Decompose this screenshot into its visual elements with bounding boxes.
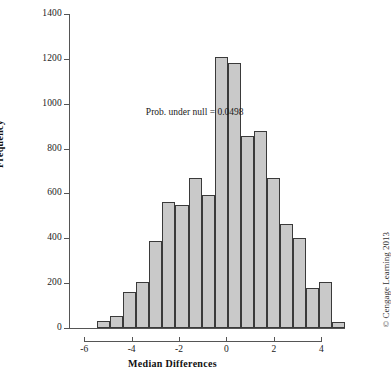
x-axis-tick (274, 337, 275, 342)
histogram-bar (175, 205, 188, 328)
x-axis-tick-label: 4 (309, 344, 333, 354)
probability-annotation: Prob. under null = 0.0498 (146, 107, 244, 117)
histogram-bar (280, 224, 293, 328)
histogram-bar (241, 136, 254, 328)
x-axis-tick (321, 337, 322, 342)
x-axis-tick (132, 337, 133, 342)
y-axis-tick (64, 193, 69, 194)
histogram-bar (202, 195, 215, 328)
x-axis-tick (84, 337, 85, 342)
x-axis-tick-label: -2 (167, 344, 191, 354)
histogram-bar (306, 288, 319, 328)
y-axis-tick (64, 328, 69, 329)
histogram-bar (332, 322, 345, 328)
plot-area (70, 14, 345, 328)
x-axis-title: Median Differences (0, 358, 345, 369)
y-axis-tick (64, 14, 69, 15)
x-axis-tick-label: 2 (262, 344, 286, 354)
histogram-bar (97, 321, 110, 328)
histogram-bar (136, 282, 149, 328)
y-axis-tick-label: 800 (28, 143, 62, 153)
histogram-bar (215, 57, 228, 328)
histogram-bar (123, 292, 136, 328)
histogram-bar (319, 282, 332, 328)
clipped-caption (4, 375, 124, 383)
y-axis-tick (64, 149, 69, 150)
histogram-bar (149, 241, 162, 328)
x-axis-baseline (69, 328, 345, 329)
y-axis-tick (64, 238, 69, 239)
x-axis-rule-line (84, 341, 321, 342)
y-axis-tick-label: 600 (28, 187, 62, 197)
y-axis-title: Frequency (0, 120, 5, 168)
x-axis-tick (179, 337, 180, 342)
y-axis-tick (64, 104, 69, 105)
x-axis-tick-label: -4 (120, 344, 144, 354)
x-axis-ruler: -6-4-2024 (0, 337, 383, 347)
y-axis-tick-label: 0 (28, 322, 62, 332)
x-axis-tick (226, 337, 227, 342)
y-axis-tick (64, 59, 69, 60)
x-axis-tick-label: -6 (72, 344, 96, 354)
histogram-bar (228, 63, 241, 328)
y-axis-tick-label: 1400 (28, 8, 62, 18)
histogram-bar (110, 316, 123, 328)
y-axis-tick (64, 283, 69, 284)
histogram-bar (189, 178, 202, 328)
histogram-bar (162, 202, 175, 328)
y-axis-tick-label: 400 (28, 232, 62, 242)
histogram-bar (254, 131, 267, 328)
x-axis-tick-label: 0 (214, 344, 238, 354)
y-axis-tick-label: 1000 (28, 98, 62, 108)
histogram-bar (293, 238, 306, 328)
y-axis-tick-label: 1200 (28, 53, 62, 63)
y-axis-tick-labels: 0200400600800100012001400 (22, 0, 62, 383)
histogram-bar (267, 178, 280, 328)
copyright-notice: © Cengage Learning 2013 (381, 232, 391, 328)
clipped-title (120, 0, 300, 4)
y-axis-tick-label: 200 (28, 277, 62, 287)
